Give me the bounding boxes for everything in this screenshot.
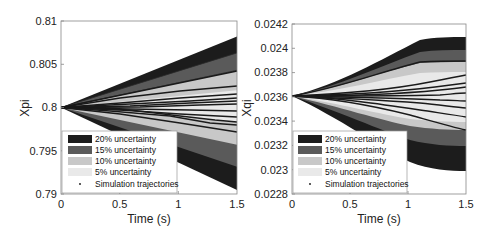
right-ytick-3: 0.0236 bbox=[254, 91, 288, 103]
legend-item-20: 20% uncertainty bbox=[325, 134, 387, 144]
legend-item-10: 10% uncertainty bbox=[95, 156, 157, 166]
right-xtick-2: 1 bbox=[405, 198, 411, 210]
right-ytick-1: 0.024 bbox=[260, 42, 288, 54]
legend-item-15: 15% uncertainty bbox=[95, 145, 157, 155]
left-xtick-3: 1.5 bbox=[229, 198, 244, 210]
right-plot: 0.0242 0.024 0.0238 0.0236 0.0234 0.0232… bbox=[240, 18, 474, 226]
right-ylabel: Xqi bbox=[240, 99, 254, 116]
left-xtick-2: 1 bbox=[175, 198, 181, 210]
left-xlabel: Time (s) bbox=[127, 212, 171, 226]
legend-item-trajectories: Simulation trajectories bbox=[95, 179, 179, 189]
right-legend: 20% uncertainty 15% uncertainty 10% unce… bbox=[293, 131, 409, 193]
right-xtick-3: 1.5 bbox=[458, 198, 473, 210]
right-ytick-6: 0.023 bbox=[260, 164, 288, 176]
legend-item-trajectories: Simulation trajectories bbox=[325, 179, 409, 189]
left-plot: 0.81 0.805 0.8 0.795 0.79 0 0.5 1 1.5 Ti… bbox=[18, 15, 245, 226]
legend-item-15: 15% uncertainty bbox=[325, 145, 387, 155]
right-xlabel: Time (s) bbox=[357, 212, 401, 226]
left-ylabel: Xpi bbox=[18, 99, 32, 116]
left-ytick-1: 0.805 bbox=[29, 58, 57, 70]
left-legend: 20% uncertainty 15% uncertainty 10% unce… bbox=[62, 131, 179, 193]
legend-item-5: 5% uncertainty bbox=[95, 167, 152, 177]
left-xtick-1: 0.5 bbox=[112, 198, 127, 210]
left-ytick-2: 0.8 bbox=[42, 101, 57, 113]
left-xtick-0: 0 bbox=[58, 198, 64, 210]
left-ytick-3: 0.795 bbox=[29, 145, 57, 157]
figure: 0.81 0.805 0.8 0.795 0.79 0 0.5 1 1.5 Ti… bbox=[0, 0, 493, 233]
right-ytick-2: 0.0238 bbox=[254, 66, 288, 78]
right-ytick-0: 0.0242 bbox=[254, 18, 288, 30]
right-ytick-4: 0.0234 bbox=[254, 115, 288, 127]
left-ytick-0: 0.81 bbox=[36, 15, 57, 27]
left-ytick-4: 0.79 bbox=[36, 188, 57, 200]
right-xtick-0: 0 bbox=[289, 198, 295, 210]
legend-item-10: 10% uncertainty bbox=[325, 156, 387, 166]
right-xtick-1: 0.5 bbox=[342, 198, 357, 210]
right-ytick-7: 0.0228 bbox=[254, 188, 288, 200]
right-ytick-5: 0.0232 bbox=[254, 139, 288, 151]
legend-item-5: 5% uncertainty bbox=[325, 167, 382, 177]
legend-item-20: 20% uncertainty bbox=[95, 134, 157, 144]
